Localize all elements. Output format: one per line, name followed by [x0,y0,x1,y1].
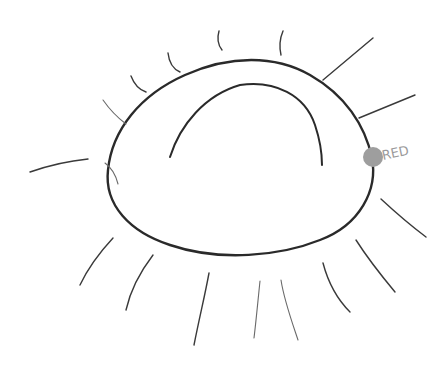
red-annotation: RED [381,143,411,163]
sketch-canvas: RED [0,0,448,368]
ray [254,281,260,338]
ray [356,240,395,292]
ray [359,95,415,118]
ray [281,280,298,340]
ray [168,53,180,72]
outer-oval [108,60,374,255]
ray [381,199,426,237]
ray [218,31,222,50]
ray [103,100,126,124]
ray [323,263,350,312]
ray [131,76,146,92]
ray [80,238,113,285]
ray [280,31,283,55]
ray [30,159,88,172]
ray [323,38,373,80]
ray [126,255,153,310]
ray [194,273,209,345]
inner-arc [170,84,322,165]
